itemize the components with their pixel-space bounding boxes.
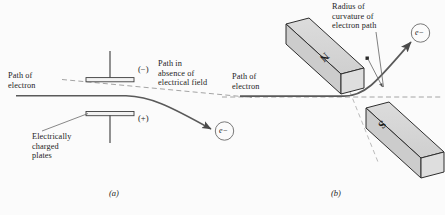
plate-negative bbox=[86, 51, 134, 82]
panel-a bbox=[16, 51, 252, 143]
path-of-electron-label-a: Path of electron bbox=[8, 71, 36, 90]
physics-diagram-figure: N S bbox=[0, 0, 445, 215]
charged-plates-label: Electrically charged plates bbox=[32, 132, 71, 161]
radius-of-curvature-label: Radius of curvature of electron path bbox=[332, 2, 376, 31]
magnet-south: S bbox=[366, 102, 444, 178]
plate-negative-bar bbox=[86, 78, 134, 82]
plate-positive-bar bbox=[86, 112, 134, 116]
electron-symbol-a: e− bbox=[219, 126, 228, 135]
negative-plate-sign: (−) bbox=[138, 64, 149, 74]
positive-plate-sign: (+) bbox=[138, 113, 149, 123]
path-in-absence-label: Path in absence of electrical field bbox=[158, 59, 207, 88]
electron-symbol-b: e− bbox=[415, 28, 424, 37]
panel-b-caption: (b) bbox=[331, 188, 341, 198]
plates-label-leader-a bbox=[42, 114, 88, 132]
panel-a-caption: (a) bbox=[109, 188, 119, 198]
path-of-electron-label-b: Path of electron bbox=[232, 72, 260, 91]
panel-b: N S bbox=[222, 18, 444, 178]
plate-positive bbox=[86, 112, 134, 144]
